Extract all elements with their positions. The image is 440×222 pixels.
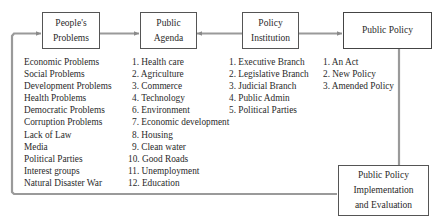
node-label-line: Public: [154, 16, 184, 30]
list-policy-institution: 1. Executive Branch 2. Legislative Branc…: [229, 56, 309, 116]
list-item: Natural Disaster War: [24, 177, 112, 189]
list-item: 2. Legislative Branch: [229, 68, 309, 80]
list-public-policy: 1. An Act 2. New Policy 3. Amended Polic…: [323, 56, 394, 92]
list-item: Interest groups: [24, 165, 112, 177]
list-item: 4. Technology: [128, 92, 229, 104]
list-item: 3. Commerce: [128, 80, 229, 92]
list-item: Democratic Problems: [24, 104, 112, 116]
node-public-agenda: Public Agenda: [140, 12, 197, 49]
node-label-line: Institution: [251, 31, 290, 45]
list-item: Development Problems: [24, 80, 112, 92]
list-item: 8. Housing: [128, 129, 229, 141]
list-item: Media: [24, 141, 112, 153]
list-item: 9. Clean water: [128, 141, 229, 153]
node-label-line: Policy: [251, 16, 290, 30]
list-item: Social Problems: [24, 68, 112, 80]
list-item: 6. Environment: [128, 104, 229, 116]
node-implementation-evaluation: Public Policy Implementation and Evaluat…: [338, 165, 429, 216]
list-item: 12. Education: [128, 177, 229, 189]
list-item: 10. Good Roads: [128, 153, 229, 165]
node-label-line: Agenda: [154, 31, 184, 45]
node-label-line: People's: [53, 16, 89, 30]
list-item: 1. Health care: [128, 56, 229, 68]
list-item: 7. Economic development: [128, 116, 229, 128]
node-label-line: and Evaluation: [353, 198, 413, 213]
list-item: 1. Executive Branch: [229, 56, 309, 68]
node-peoples-problems: People's Problems: [42, 12, 100, 49]
list-item: 5. Political Parties: [229, 104, 309, 116]
list-item: 3. Amended Policy: [323, 80, 394, 92]
list-item: Corruption Problems: [24, 116, 112, 128]
node-label-line: Public Policy: [362, 23, 413, 37]
node-policy-institution: Policy Institution: [242, 12, 299, 49]
list-item: 4. Public Admin: [229, 92, 309, 104]
list-item: Political Parties: [24, 153, 112, 165]
list-item: 2. New Policy: [323, 68, 394, 80]
node-label-line: Problems: [53, 31, 89, 45]
node-label-line: Implementation: [353, 183, 413, 198]
policy-process-diagram: People's Problems Public Agenda Policy I…: [0, 0, 440, 222]
list-item: 1. An Act: [323, 56, 394, 68]
list-item: Economic Problems: [24, 56, 112, 68]
list-item: 11. Unemployment: [128, 165, 229, 177]
list-item: 3. Judicial Branch: [229, 80, 309, 92]
list-item: Health Problems: [24, 92, 112, 104]
list-peoples-problems: Economic Problems Social Problems Develo…: [24, 56, 112, 189]
list-item: 2. Agriculture: [128, 68, 229, 80]
node-public-policy: Public Policy: [343, 12, 432, 49]
list-public-agenda: 1. Health care 2. Agriculture 3. Commerc…: [128, 56, 229, 189]
list-item: Lack of Law: [24, 129, 112, 141]
node-label-line: Public Policy: [353, 168, 413, 183]
